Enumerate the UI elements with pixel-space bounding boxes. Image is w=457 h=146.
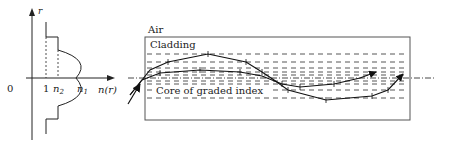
index-profile-plot: r 0 1 n2 n1 n(r) — [7, 6, 117, 140]
r-axis-label: r — [38, 6, 43, 16]
n-axis-arrow-icon — [107, 75, 115, 81]
r-axis-arrow-icon — [29, 8, 35, 16]
n2-label: n2 — [53, 83, 64, 96]
origin-label: 0 — [7, 83, 13, 94]
graded-index-fiber-diagram: r 0 1 n2 n1 n(r) Air Cladding — [0, 0, 457, 146]
cladding-label: Cladding — [150, 39, 196, 50]
core-label: Core of graded index — [156, 85, 263, 96]
tick-one-label: 1 — [43, 83, 49, 94]
n1-label: n1 — [77, 83, 88, 96]
n-axis-label: n(r) — [98, 84, 117, 95]
fiber-section: Air Cladding Core of graded index — [128, 24, 436, 120]
air-label: Air — [147, 24, 163, 35]
input-ray — [128, 84, 140, 104]
